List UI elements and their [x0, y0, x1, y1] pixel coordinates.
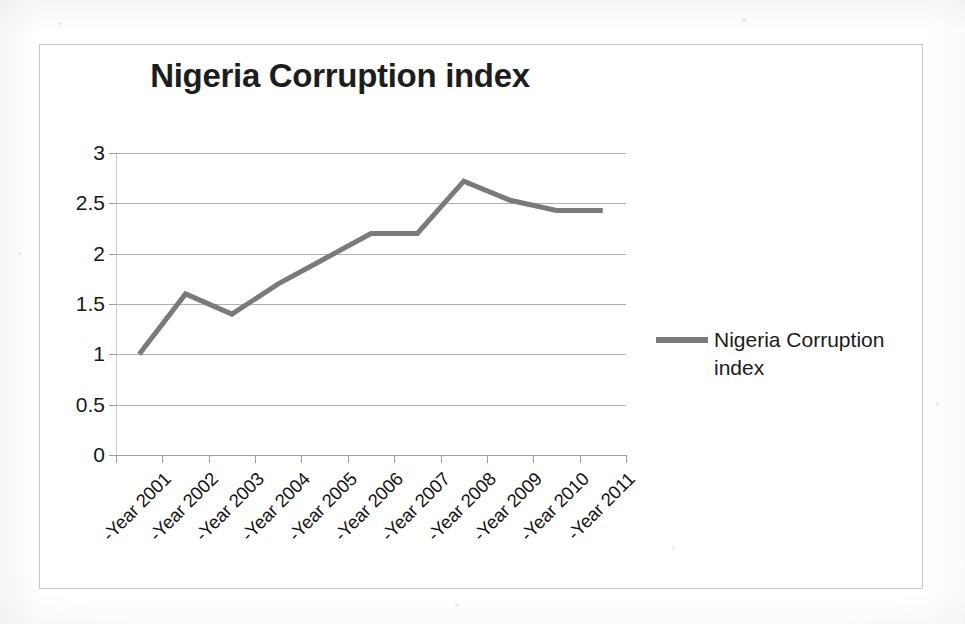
- chart-legend: Nigeria Corruption index: [656, 326, 919, 381]
- x-axis-tick: [255, 455, 256, 463]
- scan-speck: [936, 402, 939, 406]
- y-axis-tick: [109, 405, 116, 406]
- legend-label-nigeria-corruption-index: Nigeria Corruption index: [714, 326, 919, 381]
- plot-area: 00.511.522.53 -Year 2001-Year 2002-Year …: [116, 153, 626, 455]
- x-axis-tick: [487, 455, 488, 463]
- x-axis-tick: [348, 455, 349, 463]
- y-axis-label: 2: [93, 242, 105, 266]
- scanned-page-background: Nigeria Corruption index 00.511.522.53 -…: [0, 0, 965, 624]
- x-axis-tick: [301, 455, 302, 463]
- y-axis-tick: [109, 354, 116, 355]
- gridline: [116, 455, 626, 456]
- y-axis-label: 2.5: [76, 191, 105, 215]
- x-axis-tick: [533, 455, 534, 463]
- y-axis-tick: [109, 153, 116, 154]
- chart-title: Nigeria Corruption index: [40, 57, 640, 95]
- scan-speck: [58, 22, 62, 25]
- legend-swatch-nigeria-corruption-index: [656, 337, 708, 343]
- y-axis-label: 3: [93, 141, 105, 165]
- x-axis-tick: [209, 455, 210, 463]
- y-axis-tick: [109, 304, 116, 305]
- scan-speck: [455, 604, 459, 607]
- y-axis-tick: [109, 203, 116, 204]
- series-line-nigeria-corruption-index: [116, 153, 626, 455]
- y-axis-label: 1.5: [76, 292, 105, 316]
- y-axis-label: 1: [93, 342, 105, 366]
- y-axis-label: 0.5: [76, 393, 105, 417]
- x-axis-tick: [626, 455, 627, 463]
- x-axis-tick: [162, 455, 163, 463]
- y-axis-tick: [109, 254, 116, 255]
- y-axis-tick: [109, 455, 116, 456]
- x-axis-tick: [116, 455, 117, 463]
- x-axis-tick: [394, 455, 395, 463]
- scan-speck: [18, 252, 21, 255]
- scan-speck: [742, 18, 747, 22]
- chart-frame: Nigeria Corruption index 00.511.522.53 -…: [39, 44, 923, 589]
- x-axis-tick: [441, 455, 442, 463]
- y-axis-label: 0: [93, 443, 105, 467]
- x-axis-tick: [580, 455, 581, 463]
